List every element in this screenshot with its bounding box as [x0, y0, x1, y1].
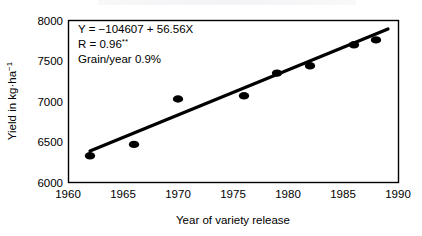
data-point: [85, 152, 95, 159]
x-tick-label-1975: 1975: [220, 188, 246, 200]
y-tick-label-6000: 6000: [37, 177, 63, 189]
x-tick-label-1990: 1990: [385, 188, 411, 200]
data-point: [129, 141, 139, 148]
data-point: [371, 36, 381, 43]
data-point: [239, 92, 249, 99]
annotation-equation: Y = −104607 + 56.56X: [78, 23, 194, 35]
data-point: [349, 41, 359, 48]
annotation-correlation-value: R = 0.96: [78, 38, 122, 50]
y-tick-label-7000: 7000: [37, 96, 63, 108]
y-tick-label-7500: 7500: [37, 55, 63, 67]
y-axis-title-superscript: −1: [5, 61, 14, 71]
y-tick-label-6500: 6500: [37, 136, 63, 148]
chart-container: 8000 7500 7000 6500 6000 1960 1965 1970 …: [0, 0, 422, 236]
data-point: [173, 95, 183, 102]
annotation-correlation: R = 0.96**: [78, 37, 128, 50]
x-tick-label-1965: 1965: [110, 188, 136, 200]
x-tick-label-1980: 1980: [275, 188, 301, 200]
yield-vs-year-scatter-plot: 8000 7500 7000 6500 6000 1960 1965 1970 …: [0, 0, 422, 236]
page-edge-artifact: [98, 0, 356, 5]
data-point: [272, 69, 282, 76]
y-axis-title: Yield in kg·ha−1: [5, 61, 18, 140]
annotation-significance-stars: **: [122, 37, 128, 46]
data-point: [305, 62, 315, 69]
x-axis-title: Year of variety release: [176, 214, 290, 226]
x-tick-label-1960: 1960: [55, 188, 81, 200]
x-tick-label-1970: 1970: [165, 188, 191, 200]
x-tick-label-1985: 1985: [330, 188, 356, 200]
svg-text:Yield in kg·ha−1: Yield in kg·ha−1: [5, 61, 18, 140]
y-tick-label-8000: 8000: [37, 15, 63, 27]
y-axis-title-main: Yield in kg·ha: [6, 70, 18, 140]
annotation-gain-per-year: Grain/year 0.9%: [78, 53, 161, 65]
